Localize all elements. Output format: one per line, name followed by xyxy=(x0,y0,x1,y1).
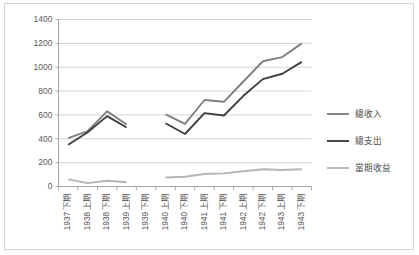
y-axis-tick-label: 1000 xyxy=(34,62,53,72)
y-axis-tick-label: 400 xyxy=(38,134,52,144)
x-axis-tick-label: 1937 下期 xyxy=(62,194,72,231)
x-axis-tick-label: 1940 上期 xyxy=(160,194,170,231)
x-axis-tick-label: 1938 上期 xyxy=(82,194,92,231)
legend-label-1: 總支出 xyxy=(355,135,382,146)
y-axis-tick-label: 800 xyxy=(38,86,52,96)
line-chart[interactable]: 02004006008001000120014001937 下期1938 上期1… xyxy=(5,4,415,251)
y-axis-tick-label: 200 xyxy=(38,157,52,167)
y-axis-tick-label: 1200 xyxy=(34,38,53,48)
y-axis-tick-label: 1400 xyxy=(34,14,53,24)
x-axis-tick-label: 1938 下期 xyxy=(101,194,111,231)
x-axis-tick-label: 1943 下期 xyxy=(296,194,306,231)
x-axis-tick-label: 1943 上期 xyxy=(276,194,286,231)
y-axis-tick-label: 600 xyxy=(38,110,52,120)
x-axis-tick-label: 1939 下期 xyxy=(140,194,150,231)
x-axis-tick-label: 1941 下期 xyxy=(218,194,228,231)
legend-label-2: 當期收益 xyxy=(355,162,391,173)
chart-plot-area: 02004006008001000120014001937 下期1938 上期1… xyxy=(5,4,415,251)
legend-label-0: 總收入 xyxy=(355,108,382,119)
series-line-2[interactable] xyxy=(68,179,126,183)
chart-frame: 02004006008001000120014001937 下期1938 上期1… xyxy=(4,3,414,250)
series-line-2[interactable] xyxy=(166,169,302,177)
y-axis-tick-label: 0 xyxy=(48,181,53,191)
series-line-0[interactable] xyxy=(166,43,302,124)
x-axis-tick-label: 1939 上期 xyxy=(121,194,131,231)
x-axis-tick-label: 1940 下期 xyxy=(179,194,189,231)
x-axis-tick-label: 1942 下期 xyxy=(257,194,267,231)
x-axis-tick-label: 1942 上期 xyxy=(238,194,248,231)
x-axis-tick-label: 1941 上期 xyxy=(199,194,209,231)
